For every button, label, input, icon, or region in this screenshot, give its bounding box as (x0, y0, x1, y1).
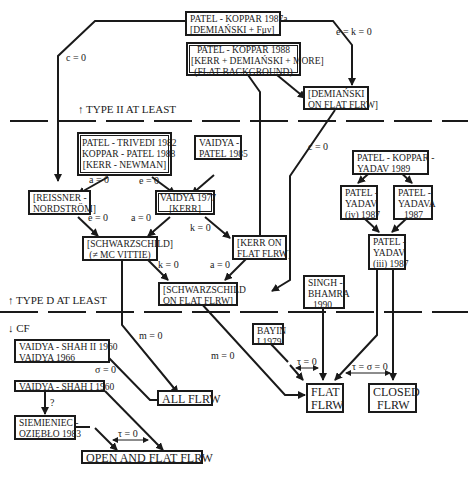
node-vaidya-shah-i-1960: VAIDYA - SHAH I 1960 (14, 380, 105, 392)
node-singh-bhamra-1990: SINGH - BHAMRA 1990 (303, 275, 345, 309)
node-schwarzschild-flat-flrw: [SCHWARZSCHILD ON FLAT FLRW] (158, 282, 238, 306)
node-demianski-flat-flrw: [DEMIAŃSKI ON FLAT FLRW] (303, 86, 369, 110)
band-type-d: ↑ TYPE D AT LEAST (8, 294, 107, 306)
edge-label-tau-sigma0: τ = σ = 0 (352, 361, 388, 372)
node-patel-yadava-1987: PATEL - YADAVA 1987 (393, 185, 433, 220)
edge-label-a0-kerr: a = 0 (210, 259, 230, 270)
node-kerr-flat-flrw: [KERR ON FLAT FLRW] (232, 235, 287, 260)
edge-label-k0-schw: k = 0 (158, 259, 179, 270)
node-closed-flrw: CLOSED FLRW (368, 383, 417, 413)
node-flat-flrw: FLAT FLRW (306, 383, 344, 413)
node-schwarzschild: [SCHWARZSCHILD] (≠ MC VITTIE) (82, 236, 158, 261)
node-vaidya-patel-1985: VAIDYA - PATEL 1985 (194, 135, 242, 160)
node-patel-koppar-1988: PATEL - KOPPAR 1988 [KERR + DEMIAŃSKI + … (186, 42, 301, 76)
node-patel-yadav-iii-1987: PATEL - YADAV (iii) 1987 (368, 234, 406, 270)
band-type-ii: ↑ TYPE II AT LEAST (78, 103, 176, 115)
node-reissner-nordstrom: [REISSNER - NORDSTRÖM] (28, 190, 91, 215)
node-vaidya-1977: VAIDYA 1977 [KERR] (155, 190, 215, 215)
node-siemieniec-oziebo-1983: SIEMIENIEC - OZIĘBŁO 1983 (14, 415, 76, 440)
node-open-and-flat-flrw: OPEN AND FLAT FLRW (81, 450, 203, 464)
node-bayin-1979: BAYIN I 1979 (252, 323, 284, 345)
node-all-flrw: ALL FLRW (157, 390, 213, 406)
node-patel-trivedi-1982: PATEL - TRIVEDI 1982 KOPPAR - PATEL 1988… (77, 132, 172, 176)
edge-label-ek0: e = k = 0 (336, 26, 372, 37)
node-patel-koppar-1987a: PATEL - KOPPAR 1987a [DEMIAŃSKI + Fμν] (185, 11, 281, 36)
edge-label-c0-right: c = 0 (308, 141, 328, 152)
edge-label-e0-rn: e = 0 (88, 212, 108, 223)
node-vaidya-shah-ii-1960: VAIDYA - SHAH II 1960 VAIDYA 1966 (14, 339, 110, 363)
band-cf: ↓ CF (8, 322, 30, 334)
edge-label-a0-v: a = 0 (131, 212, 151, 223)
edge-label-e0-v: e = 0 (139, 175, 159, 186)
edge-label-a0-rn: a = 0 (89, 174, 109, 185)
edge-label-k0-v: k = 0 (190, 222, 211, 233)
edge-label-sigma0: σ = 0 (95, 364, 116, 375)
edge-label-c0-left: c = 0 (66, 52, 86, 63)
edge-label-tau0-flat: τ = 0 (297, 356, 317, 367)
edge-label-question: ? (50, 397, 54, 408)
edge-label-m0-left: m = 0 (139, 330, 162, 341)
node-patel-yadav-iv-1987: PATEL - YADAV (iv) 1987 (340, 185, 378, 220)
edge-label-tau0-open: τ = 0 (118, 428, 138, 439)
edge-label-m0-mid: m = 0 (211, 350, 234, 361)
node-patel-koppar-yadav-1989: PATEL - KOPPAR - YADAV 1989 (352, 150, 429, 175)
